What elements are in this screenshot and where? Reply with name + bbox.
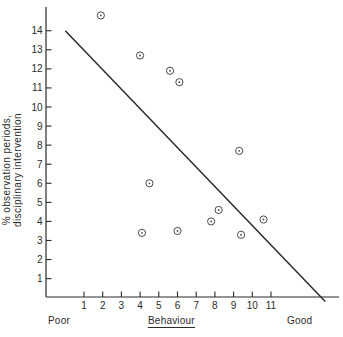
x-tick-label: 7 [193,300,199,311]
data-point-center [177,230,179,232]
data-point-center [149,182,151,184]
x-tick-label: 8 [212,300,218,311]
y-tick-label: 13 [31,44,43,55]
y-tick-label: 7 [37,159,43,170]
y-tick-label: 4 [37,216,43,227]
x-tick-label: 2 [100,300,106,311]
y-tick-label: 5 [37,197,43,208]
y-tick-label: 2 [37,254,43,265]
x-axis-left-label: Poor [48,315,70,326]
x-axis-title: Behaviour [148,315,192,328]
x-tick-label: 11 [266,300,277,311]
data-point-center [238,150,240,152]
data-point-center [210,221,212,223]
x-tick-label: 4 [137,300,143,311]
y-tick-label: 3 [37,235,43,246]
data-point-center [139,55,141,57]
x-tick-label: 3 [119,300,125,311]
x-axis-right-label: Good [287,315,312,326]
y-tick-label: 6 [37,178,43,189]
data-point-center [240,234,242,236]
y-tick-label: 10 [31,102,43,113]
x-tick-label: 1 [81,300,87,311]
data-point-center [141,232,143,234]
y-axis-label-line1: % observation periods, [2,113,13,227]
data-point-center [169,70,171,72]
y-axis-label-line2: disciplinary intervention [12,113,23,227]
x-axis-title-text: Behaviour [148,315,195,328]
x-tick-label: 6 [175,300,181,311]
data-point-center [100,15,102,17]
trend-line [65,31,325,302]
scatter-plot-figure: 12345678910111213141234567891011 % obser… [0,0,343,337]
chart-canvas: 12345678910111213141234567891011 [0,0,343,337]
x-tick-label: 10 [247,300,259,311]
data-point-center [218,209,220,211]
y-tick-label: 14 [31,25,43,36]
y-axis-label: % observation periods, disciplinary inte… [2,113,23,227]
x-tick-label: 5 [156,300,162,311]
y-tick-label: 12 [31,63,43,74]
data-point-center [263,219,265,221]
y-tick-label: 8 [37,140,43,151]
y-tick-label: 9 [37,121,43,132]
y-tick-label: 1 [37,273,43,284]
x-tick-label: 9 [231,300,237,311]
y-tick-label: 11 [32,82,43,93]
data-point-center [178,81,180,83]
